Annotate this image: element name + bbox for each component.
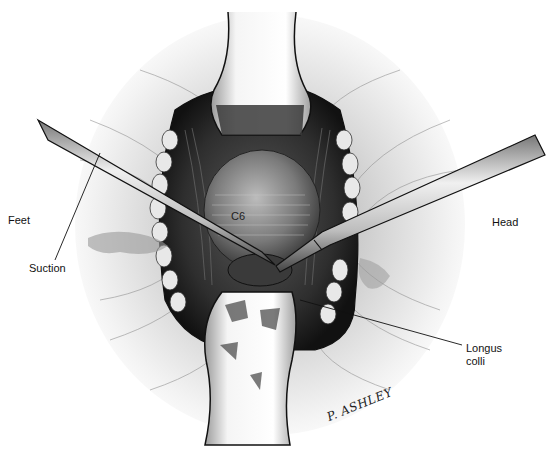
illustration-artwork: [0, 0, 550, 454]
label-c6-vertebra: C6: [231, 210, 245, 223]
label-feet: Feet: [8, 214, 30, 227]
surgical-illustration: Feet Head Suction C6 Longus colli P. ASH…: [0, 0, 550, 454]
label-suction: Suction: [29, 262, 66, 275]
label-longus-colli: Longus colli: [466, 342, 502, 368]
label-head: Head: [492, 216, 518, 229]
